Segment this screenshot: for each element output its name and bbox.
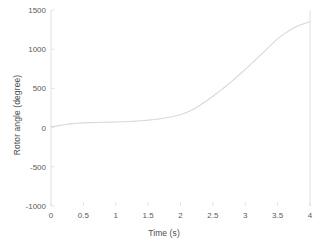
chart-figure: -1000-500050010001500 00.511.522.533.54 … [0,0,328,244]
y-tick-label: 1500 [8,6,46,15]
x-axis-title: Time (s) [0,228,328,238]
x-tick-label: 4 [308,211,312,220]
x-tick-label: 2 [178,211,182,220]
x-tick-label: 1.5 [143,211,154,220]
x-tick-label: 0 [49,211,53,220]
x-tick-label: 2.5 [207,211,218,220]
data-line-rotor-angle [51,22,310,127]
y-axis-title: Rotor angle (degree) [12,50,22,180]
x-tick-marks [51,203,310,207]
x-tick-label: 1 [114,211,118,220]
plot-canvas [0,0,328,244]
x-tick-label: 3.5 [272,211,283,220]
x-tick-label: 0.5 [78,211,89,220]
x-tick-label: 3 [243,211,247,220]
y-tick-label: -1000 [8,202,46,211]
axes-spines [51,10,310,206]
